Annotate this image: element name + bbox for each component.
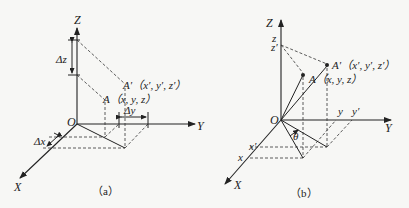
delta-y-label: Δy [123, 104, 135, 116]
origin-label: O [67, 115, 76, 129]
a-floor-y-dash [105, 124, 119, 137]
delta-x-tick [54, 133, 60, 136]
panel-b-rotation: Z z z′ Y X O y y′ x′ x θ A（x, y, z） A′（x… [225, 16, 395, 199]
x-axis-label: X [13, 180, 22, 194]
theta-label: θ [293, 130, 299, 142]
a-prime-to-z-dash [281, 45, 327, 64]
a-prime-floor-y-dash [327, 120, 352, 147]
delta-x-label: Δx [33, 135, 45, 147]
point-a-label: A（x, y, z） [102, 93, 156, 105]
panel-a-translation: Z Y X O Δz Δy Δx A（x, y, z） A′（x′, y′, z… [13, 13, 205, 197]
y-tick-label: y [337, 105, 343, 117]
origin-to-a-prime-floor [281, 120, 327, 147]
a-to-z-dash [77, 75, 105, 100]
z-prime-tick-label: z′ [270, 41, 278, 53]
caption-b: （b） [290, 187, 318, 199]
x-axis [225, 120, 281, 184]
y-axis-label: Y [385, 121, 393, 135]
a-floor-y-dash [303, 120, 336, 158]
point-a-prime-label: A′（x′, y′, z′） [122, 79, 186, 91]
z-axis-label: Z [74, 13, 81, 27]
delta-z-label: Δz [55, 53, 67, 65]
origin-label: O [270, 113, 279, 127]
a-prime-to-z-dash [77, 40, 125, 84]
x-axis [20, 124, 77, 178]
y-prime-tick-label: y′ [351, 105, 360, 117]
y-axis-label: Y [197, 119, 205, 133]
point-a-prime-label: A′（x′, y′, z′） [331, 59, 395, 71]
a-prime-floor-y-dash [125, 124, 148, 148]
x-axis-label: X [233, 178, 242, 192]
diagram-canvas: Z Y X O Δz Δy Δx A（x, y, z） A′（x′, y′, z… [0, 0, 409, 208]
origin-to-a-floor [281, 120, 303, 158]
point-a-label: A（x, y, z） [308, 73, 362, 85]
point-a-prime-dot [325, 63, 329, 67]
origin-to-a-prime-floor [77, 124, 125, 148]
z-axis-label: Z [266, 16, 273, 30]
caption-a: （a） [92, 185, 119, 197]
x-prime-tick-label: x′ [248, 140, 257, 152]
x-tick-label: x [237, 151, 243, 163]
point-a-dot [301, 73, 305, 77]
